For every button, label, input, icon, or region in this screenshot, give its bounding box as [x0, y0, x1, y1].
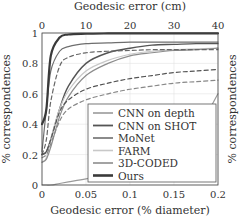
y-axis-title-right-partial: % correspondences — [226, 54, 239, 163]
legend-label: FARM — [118, 145, 151, 157]
x-axis-title-top: Geodesic error (cm) — [74, 0, 186, 13]
x-top-tick-label: 10 — [80, 20, 93, 31]
x-tick-label: 0 — [39, 189, 45, 200]
y-tick-label: 0.4 — [22, 119, 38, 130]
legend-label: 3D-CODED — [118, 157, 178, 169]
legend-label: CNN on depth — [118, 107, 195, 119]
x-top-tick-label: 0 — [39, 20, 45, 31]
x-top-tick-label: 30 — [168, 20, 181, 31]
y-tick-label: 0 — [32, 180, 38, 191]
chart: 00.050.10.150.2 010203040 00.20.40.60.81… — [0, 0, 240, 221]
y-tick-label: 0.8 — [22, 58, 38, 69]
x-tick-label: 0.2 — [210, 189, 226, 200]
x-top-tick-label: 40 — [212, 20, 225, 31]
y-tick-label: 0.2 — [22, 150, 38, 161]
x-axis-title: Geodesic error (% diameter) — [50, 204, 209, 217]
y-tick-label: 0.6 — [22, 89, 38, 100]
y-axis-title: % correspondences — [0, 54, 13, 163]
legend: CNN on depthCNN on SHOTMoNetFARM3D-CODED… — [88, 104, 216, 182]
y-ticks: 00.20.40.60.81 — [22, 28, 38, 191]
x-tick-label: 0.1 — [122, 189, 138, 200]
x-top-tick-label: 20 — [124, 20, 137, 31]
x-tick-label: 0.05 — [75, 189, 97, 200]
legend-label: CNN on SHOT — [118, 120, 196, 132]
x-ticks: 00.050.10.150.2 — [39, 189, 226, 200]
y-tick-label: 1 — [32, 28, 38, 39]
x-tick-label: 0.15 — [163, 189, 185, 200]
legend-label: MoNet — [118, 132, 155, 144]
legend-label: Ours — [118, 170, 144, 182]
x-ticks-top: 010203040 — [39, 20, 225, 31]
